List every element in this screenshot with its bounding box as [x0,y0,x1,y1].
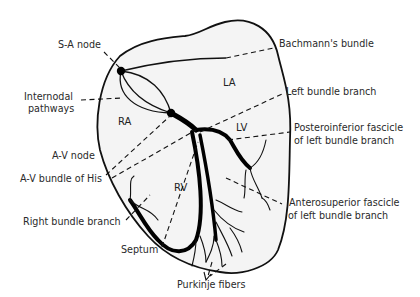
region-ra: RA [118,116,132,127]
label-anterosuperior-2: of left bundle branch [288,210,388,221]
label-sa-node: S-A node [58,39,101,50]
sa-node [117,67,125,75]
label-left-bundle: Left bundle branch [286,86,376,97]
label-anterosuperior-1: Anterosuperior fascicle [289,197,400,208]
region-lv: LV [236,122,247,133]
label-septum: Septum [121,244,158,255]
region-la: LA [223,77,236,88]
label-posteroinferior-1: Posteroinferior fascicle [294,122,403,133]
label-internodal-1: Internodal [24,91,73,102]
av-node [167,109,175,117]
label-purkinje: Purkinje fibers [177,279,246,290]
label-posteroinferior-2: of left bundle branch [294,135,394,146]
label-bundle-his: A-V bundle of His [20,173,102,184]
region-rv: RV [174,182,187,193]
label-av-node: A-V node [52,150,95,161]
heart-conduction-diagram: LA RA LV RV S-A node Internodal pathways… [0,0,420,297]
label-internodal-2: pathways [28,103,74,114]
label-bachmann: Bachmann's bundle [279,38,374,49]
label-right-bundle: Right bundle branch [23,216,121,227]
